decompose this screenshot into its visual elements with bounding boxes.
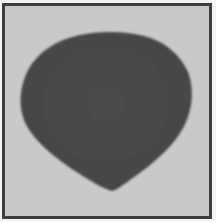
photo-frame: dark rounded teardrop-shaped object on l… <box>0 0 216 222</box>
object-shape <box>0 0 216 222</box>
